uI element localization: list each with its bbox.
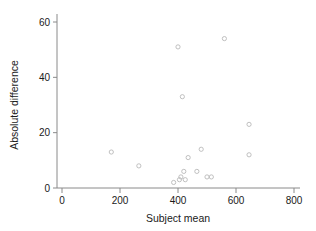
y-axis: 0204060 [39,14,57,194]
data-point [137,164,141,168]
data-point [182,169,186,173]
y-tick-label-40: 40 [39,72,51,83]
data-point [222,37,226,41]
data-point [209,175,213,179]
x-axis: 0200400600800 [57,188,303,206]
data-points-layer [109,37,251,185]
data-point [195,169,199,173]
data-point [172,180,176,184]
y-axis-title: Absolute difference [8,60,20,150]
data-point [183,178,187,182]
data-point [180,95,184,99]
data-point [205,175,209,179]
data-point [109,150,113,154]
x-tick-label-600: 600 [228,195,245,206]
x-tick-label-200: 200 [112,195,129,206]
scatter-plot-figure: 0204060 0200400600800 Subject mean Absol… [0,0,316,231]
x-axis-title: Subject mean [146,212,210,224]
data-point [186,155,190,159]
x-tick-label-0: 0 [59,195,65,206]
data-point [247,122,251,126]
data-point [247,153,251,157]
y-tick-label-0: 0 [44,183,50,194]
x-tick-label-800: 800 [286,195,303,206]
x-tick-label-400: 400 [170,195,187,206]
y-tick-label-60: 60 [39,17,51,28]
data-point [176,45,180,49]
data-point [199,147,203,151]
plot-canvas: 0204060 0200400600800 Subject mean Absol… [0,0,316,231]
y-tick-label-20: 20 [39,127,51,138]
